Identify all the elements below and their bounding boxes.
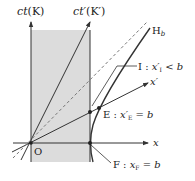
leader-line-f: [91, 145, 111, 163]
point-f-dot: [88, 141, 92, 145]
point-i-dot: [88, 110, 92, 114]
spacetime-diagram: ct(K) ct′(K′) x x′ Hb O I : x′I < b E : …: [0, 0, 195, 181]
origin-dot: [29, 141, 33, 145]
hyperbola-hb: [91, 28, 151, 162]
shaded-region: [31, 30, 90, 162]
x-axis-label: x: [153, 137, 159, 148]
ct-axis-label: ct(K): [17, 5, 44, 18]
origin-label: O: [34, 146, 42, 157]
point-f-label: F : xF = b: [113, 159, 161, 171]
point-i-label: I : x′I < b: [138, 61, 183, 73]
x-prime-axis-label: x′: [150, 76, 159, 87]
hyperbola-label: Hb: [152, 25, 166, 38]
point-e-dot: [97, 106, 101, 110]
ct-prime-axis-label: ct′(K′): [73, 5, 105, 18]
point-e-label: E : x′E = b: [103, 109, 153, 121]
